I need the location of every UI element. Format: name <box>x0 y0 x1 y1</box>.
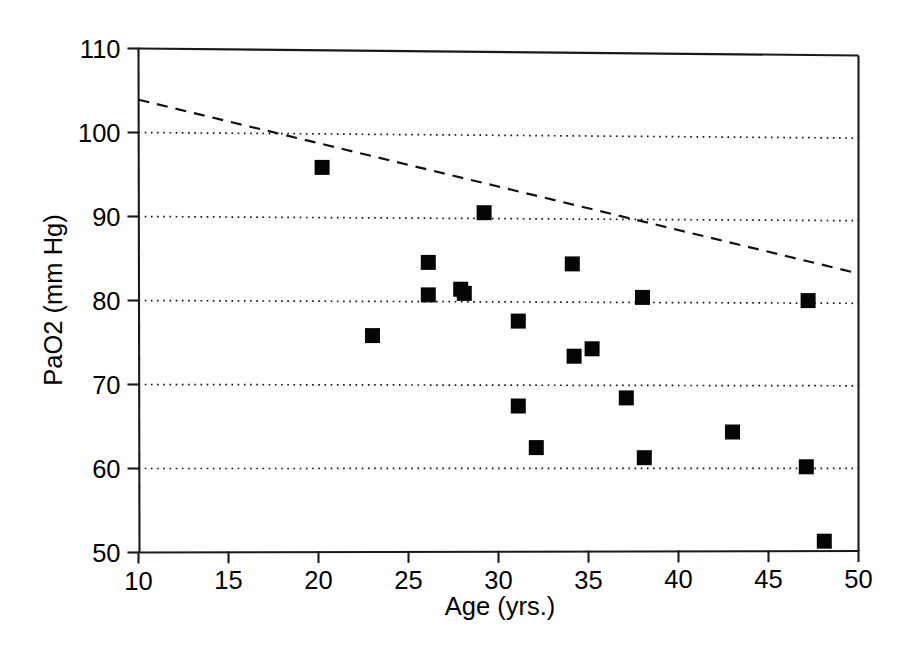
data-point <box>421 255 436 270</box>
data-point <box>725 425 740 440</box>
y-axis-title: PaO2 (mm Hg) <box>39 214 67 385</box>
y-tick-label-80: 80 <box>92 287 120 315</box>
y-tick-label-70: 70 <box>92 371 120 399</box>
y-tick-label-90: 90 <box>92 203 120 231</box>
data-point <box>637 450 652 465</box>
x-axis-title: Age (yrs.) <box>445 592 556 620</box>
data-point <box>567 349 582 364</box>
data-point <box>457 286 472 301</box>
x-tick-label-20: 20 <box>304 566 332 594</box>
data-point <box>511 314 526 329</box>
chart-canvas: 5060708090100110 101520253035404550 Age … <box>0 0 901 645</box>
data-point <box>817 534 832 549</box>
data-point <box>635 290 650 305</box>
data-point <box>421 287 436 302</box>
data-point <box>365 328 380 343</box>
x-tick-label-50: 50 <box>844 565 872 593</box>
x-tick-label-25: 25 <box>394 566 422 594</box>
x-axis-tick-labels: 101520253035404550 <box>124 565 872 595</box>
scatter-plot-figure: 5060708090100110 101520253035404550 Age … <box>0 0 901 645</box>
y-tick-label-50: 50 <box>92 539 120 567</box>
plot-background <box>0 0 901 645</box>
data-point <box>619 390 634 405</box>
x-tick-label-40: 40 <box>664 565 692 593</box>
data-point <box>585 341 600 356</box>
data-point <box>799 459 814 474</box>
x-tick-label-15: 15 <box>214 566 242 594</box>
data-point <box>511 399 526 414</box>
data-point <box>565 256 580 271</box>
data-point <box>477 205 492 220</box>
x-tick-label-30: 30 <box>484 566 512 594</box>
data-point <box>529 440 544 455</box>
y-tick-label-100: 100 <box>78 119 121 147</box>
y-tick-label-110: 110 <box>80 35 121 63</box>
data-point <box>801 293 816 308</box>
y-tick-label-60: 60 <box>92 455 120 483</box>
x-tick-label-35: 35 <box>574 566 602 594</box>
x-tick-label-10: 10 <box>124 567 152 595</box>
x-tick-label-45: 45 <box>754 565 782 593</box>
data-point <box>315 160 330 175</box>
